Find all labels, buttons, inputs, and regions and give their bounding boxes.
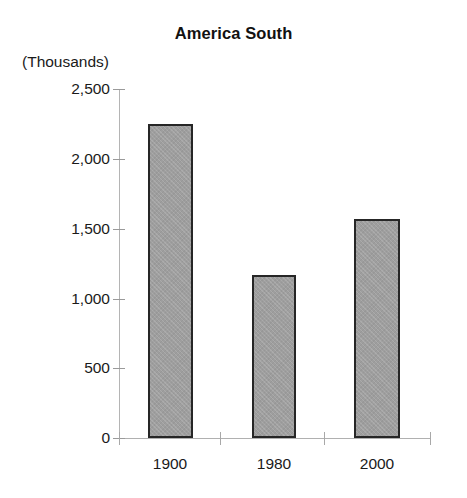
bar-1980 bbox=[252, 275, 296, 438]
y-tick-mark bbox=[113, 299, 125, 300]
y-axis-units-label: (Thousands) bbox=[22, 53, 109, 71]
y-axis-line bbox=[119, 89, 120, 439]
y-tick-mark bbox=[113, 159, 125, 160]
x-axis-label-1980: 1980 bbox=[257, 455, 291, 473]
x-tick-mark bbox=[324, 432, 325, 445]
plot-area: 2,500 2,000 1,500 1,000 500 0 bbox=[119, 89, 431, 439]
bar-chart-figure: America South (Thousands) 2,500 2,000 1,… bbox=[0, 0, 467, 498]
x-tick-mark bbox=[430, 432, 431, 445]
bar-2000 bbox=[354, 219, 400, 438]
x-axis-line bbox=[119, 438, 431, 439]
y-tick-label: 1,000 bbox=[71, 290, 110, 308]
x-tick-mark bbox=[119, 432, 120, 445]
y-tick-mark bbox=[113, 89, 125, 90]
bar-1900 bbox=[148, 124, 193, 438]
x-axis-label-2000: 2000 bbox=[360, 455, 394, 473]
y-tick-label: 500 bbox=[84, 359, 110, 377]
y-tick-label: 2,000 bbox=[71, 150, 110, 168]
y-tick-mark bbox=[113, 229, 125, 230]
x-axis-label-1900: 1900 bbox=[153, 455, 187, 473]
chart-title: America South bbox=[0, 24, 467, 43]
y-tick-label: 2,500 bbox=[71, 80, 110, 98]
x-tick-mark bbox=[220, 432, 221, 445]
y-tick-label: 0 bbox=[101, 429, 110, 447]
y-tick-label: 1,500 bbox=[71, 220, 110, 238]
y-tick-mark bbox=[113, 368, 125, 369]
